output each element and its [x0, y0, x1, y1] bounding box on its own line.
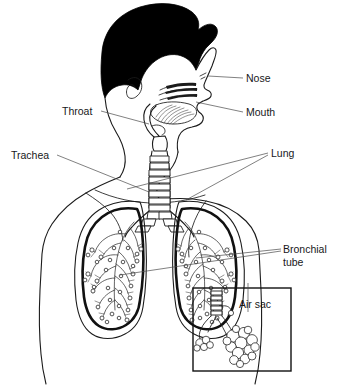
leader-trachea — [57, 155, 149, 192]
lung-right-wall — [176, 208, 237, 329]
diagram-canvas: Nose Mouth Throat Trachea Lung Bronchial… — [0, 0, 340, 386]
trachea-group — [125, 151, 194, 237]
nasal-cavity — [159, 83, 197, 100]
leader-throat — [101, 111, 149, 124]
leader-lung-lower — [186, 155, 268, 200]
label-bronchial-tube-line2: tube — [283, 256, 304, 268]
label-trachea: Trachea — [11, 149, 49, 161]
label-throat: Throat — [62, 105, 92, 117]
lung-right — [173, 201, 245, 338]
leader-nose — [208, 76, 243, 78]
body-outline-left — [39, 177, 120, 384]
oral-cavity-tongue — [151, 102, 197, 124]
label-air-sac: Air sac — [239, 298, 271, 310]
respiratory-system-diagram: Nose Mouth Throat Trachea Lung Bronchial… — [0, 0, 340, 386]
bronchial-tree-right — [176, 222, 236, 324]
neck-back — [105, 98, 125, 177]
lung-left-wall — [83, 208, 144, 329]
hair-shape — [101, 4, 217, 98]
label-mouth: Mouth — [246, 106, 275, 118]
larynx — [153, 136, 168, 151]
label-bronchial-tube-line1: Bronchial — [283, 243, 327, 255]
leader-bronchial-upper — [196, 249, 281, 258]
lung-left — [75, 201, 147, 338]
label-nose: Nose — [246, 72, 271, 84]
lung-left-outer-membrane — [75, 201, 147, 338]
leader-mouth — [196, 102, 243, 112]
label-lung: Lung — [271, 147, 295, 159]
leader-lung-upper — [127, 153, 268, 189]
lung-right-outer-membrane — [173, 201, 245, 338]
alveoli-cluster-main — [223, 325, 259, 367]
nostril-mark — [200, 73, 206, 79]
